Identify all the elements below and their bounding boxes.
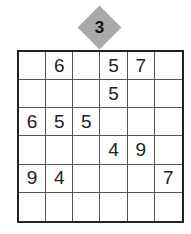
- grid-cell[interactable]: 4: [46, 165, 73, 193]
- grid-cell[interactable]: [128, 193, 155, 221]
- grid-cell[interactable]: [46, 136, 73, 164]
- grid-cell[interactable]: [100, 108, 127, 136]
- grid-cell[interactable]: [46, 193, 73, 221]
- grid-cell[interactable]: [73, 52, 100, 80]
- grid-cell[interactable]: 5: [100, 80, 127, 108]
- grid-cell[interactable]: [155, 80, 182, 108]
- grid-cell[interactable]: 5: [100, 52, 127, 80]
- grid-cell[interactable]: [19, 80, 46, 108]
- grid-cell[interactable]: [73, 165, 100, 193]
- grid-cell[interactable]: [155, 193, 182, 221]
- grid-cell[interactable]: [19, 136, 46, 164]
- grid-cell[interactable]: 6: [46, 52, 73, 80]
- grid-cell[interactable]: [100, 193, 127, 221]
- grid-cell[interactable]: 5: [46, 108, 73, 136]
- grid-cell[interactable]: [73, 136, 100, 164]
- grid-cell[interactable]: [100, 165, 127, 193]
- grid-cell[interactable]: 7: [128, 52, 155, 80]
- grid-cell[interactable]: [155, 108, 182, 136]
- grid-cell[interactable]: 6: [19, 108, 46, 136]
- puzzle-grid: 6 5 7 5 6 5 5 4 9 9 4 7: [17, 50, 184, 223]
- grid-cell[interactable]: [73, 80, 100, 108]
- grid-cell[interactable]: 9: [128, 136, 155, 164]
- level-number: 3: [84, 12, 115, 43]
- grid-cell[interactable]: 7: [155, 165, 182, 193]
- grid-cell[interactable]: 5: [73, 108, 100, 136]
- grid-cell[interactable]: [128, 80, 155, 108]
- grid-cell[interactable]: [19, 52, 46, 80]
- grid-cell[interactable]: [128, 108, 155, 136]
- grid-cell[interactable]: 9: [19, 165, 46, 193]
- grid-cell[interactable]: [73, 193, 100, 221]
- grid-cell[interactable]: [155, 52, 182, 80]
- grid-cell[interactable]: [155, 136, 182, 164]
- grid-cell[interactable]: [128, 165, 155, 193]
- grid-cell[interactable]: [19, 193, 46, 221]
- grid-cell[interactable]: [46, 80, 73, 108]
- grid-cell[interactable]: 4: [100, 136, 127, 164]
